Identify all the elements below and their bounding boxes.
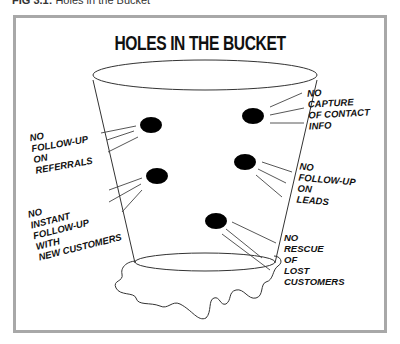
label-no-rescue-lost-customers: NO RESCUE OF LOST CUSTOMERS bbox=[284, 232, 345, 287]
bucket-bottom-rim bbox=[135, 253, 275, 271]
bucket-top-rim bbox=[93, 60, 317, 90]
hole-contact bbox=[242, 108, 264, 124]
hole-lost-customers bbox=[205, 213, 227, 229]
hole-leads bbox=[234, 154, 256, 170]
hole-new-customers bbox=[146, 168, 168, 184]
leak-lines bbox=[101, 93, 304, 270]
label-no-capture-contact-info: NO CAPTURE OF CONTACT INFO bbox=[307, 84, 371, 131]
hole-referrals bbox=[140, 117, 162, 133]
label-no-follow-up-leads: NO FOLLOW-UP ON LEADS bbox=[296, 161, 357, 210]
